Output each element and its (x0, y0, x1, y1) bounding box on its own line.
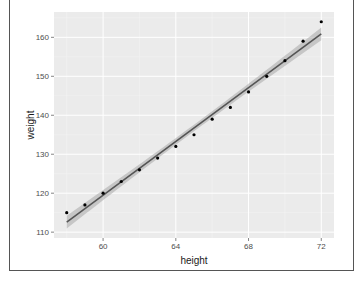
data-point (101, 192, 104, 195)
x-tick-label: 72 (317, 242, 326, 251)
y-axis-title: weight (25, 110, 36, 140)
data-point (120, 180, 123, 183)
data-point (320, 20, 323, 23)
y-tick-label: 160 (36, 33, 50, 42)
y-tick-label: 130 (36, 150, 50, 159)
y-tick-label: 120 (36, 189, 50, 198)
data-point (138, 168, 141, 171)
data-point (65, 211, 68, 214)
data-point (283, 59, 286, 62)
y-tick-label: 140 (36, 111, 50, 120)
data-point (192, 133, 195, 136)
data-point (229, 106, 232, 109)
data-point (247, 90, 250, 93)
x-tick-label: 60 (99, 242, 108, 251)
y-axis-ticks: 110120130140150160 (36, 33, 54, 237)
data-point (156, 157, 159, 160)
data-point (83, 203, 86, 206)
x-axis-ticks: 60646872 (99, 238, 327, 251)
data-point (211, 118, 214, 121)
y-tick-label: 110 (36, 228, 49, 237)
x-axis-title: height (180, 255, 207, 266)
x-tick-label: 68 (244, 242, 253, 251)
x-tick-label: 64 (171, 242, 180, 251)
data-point (301, 40, 304, 43)
data-point (174, 145, 177, 148)
data-point (265, 75, 268, 78)
y-tick-label: 150 (36, 72, 50, 81)
